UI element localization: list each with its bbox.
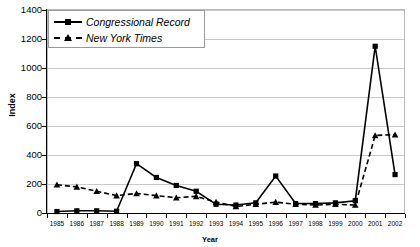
- data-point-marker: [154, 175, 159, 180]
- legend-item-congressional-record: Congressional Record: [54, 14, 199, 30]
- x-tick-mark: [345, 214, 346, 218]
- x-tick-mark: [266, 214, 267, 218]
- data-point-marker: [373, 44, 378, 49]
- y-tick-mark: [42, 68, 47, 69]
- x-tick-mark: [286, 214, 287, 218]
- data-point-marker: [74, 208, 79, 213]
- data-point-marker: [392, 131, 399, 137]
- legend-item-new-york-times: New York Times: [54, 30, 199, 46]
- x-tick-mark: [127, 214, 128, 218]
- series-line-congressional-record: [57, 46, 395, 211]
- data-point-marker: [174, 183, 179, 188]
- x-tick-mark: [146, 214, 147, 218]
- x-axis-title: Year: [0, 235, 420, 244]
- x-tick-mark: [67, 214, 68, 218]
- legend-label: New York Times: [86, 32, 162, 44]
- x-tick-label: 2002: [382, 220, 408, 227]
- x-tick-mark: [365, 214, 366, 218]
- y-tick-mark: [42, 97, 47, 98]
- y-tick-mark: [42, 126, 47, 127]
- data-point-marker: [273, 173, 278, 178]
- x-tick-mark: [325, 214, 326, 218]
- data-point-marker: [114, 209, 119, 214]
- data-point-marker: [134, 161, 139, 166]
- y-tick-mark: [42, 155, 47, 156]
- x-tick-mark: [107, 214, 108, 218]
- x-tick-mark: [405, 214, 406, 218]
- x-tick-mark: [186, 214, 187, 218]
- chart-container: 0200400600800100012001400 Index 19851986…: [0, 0, 420, 247]
- x-tick-mark: [246, 214, 247, 218]
- x-tick-mark: [306, 214, 307, 218]
- legend-swatch-solid-square-icon: [54, 16, 82, 28]
- legend-label: Congressional Record: [86, 16, 190, 28]
- chart-legend: Congressional Record New York Times: [48, 10, 205, 48]
- series-line-new-york-times: [57, 135, 395, 207]
- data-point-marker: [392, 172, 397, 177]
- data-point-marker: [54, 209, 59, 214]
- y-tick-mark: [42, 184, 47, 185]
- legend-swatch-dashed-triangle-icon: [54, 32, 82, 44]
- data-point-marker: [94, 208, 99, 213]
- x-tick-mark: [47, 214, 48, 218]
- x-tick-mark: [206, 214, 207, 218]
- x-tick-mark: [87, 214, 88, 218]
- x-tick-mark: [226, 214, 227, 218]
- x-tick-mark: [385, 214, 386, 218]
- y-tick-mark: [42, 10, 47, 11]
- x-tick-mark: [166, 214, 167, 218]
- y-tick-mark: [42, 39, 47, 40]
